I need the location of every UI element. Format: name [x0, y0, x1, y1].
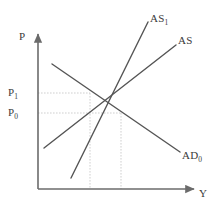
- guide-lines: [38, 93, 121, 189]
- output-axis-label: Y: [199, 188, 207, 199]
- p1-subscript: 1: [14, 92, 18, 101]
- ad0-subscript: 0: [198, 155, 202, 164]
- axes: [38, 34, 194, 189]
- price-level-p1-label: P1: [8, 87, 18, 101]
- diagram-canvas: [0, 0, 216, 209]
- price-axis-label: P: [19, 31, 25, 42]
- as-curve-label: AS: [178, 35, 192, 49]
- ad-as-diagram: P Y P1 P0 AS1 AS AD0: [0, 0, 216, 209]
- as1-curve-label: AS1: [150, 13, 168, 27]
- price-level-p0-label: P0: [8, 107, 18, 121]
- as-curve: [44, 45, 176, 148]
- ad0-curve: [52, 64, 180, 152]
- as1-subscript: 1: [164, 18, 168, 27]
- as1-curve: [71, 22, 148, 178]
- curves: [44, 22, 180, 178]
- ad0-curve-label: AD0: [182, 150, 202, 164]
- p0-subscript: 0: [14, 112, 18, 121]
